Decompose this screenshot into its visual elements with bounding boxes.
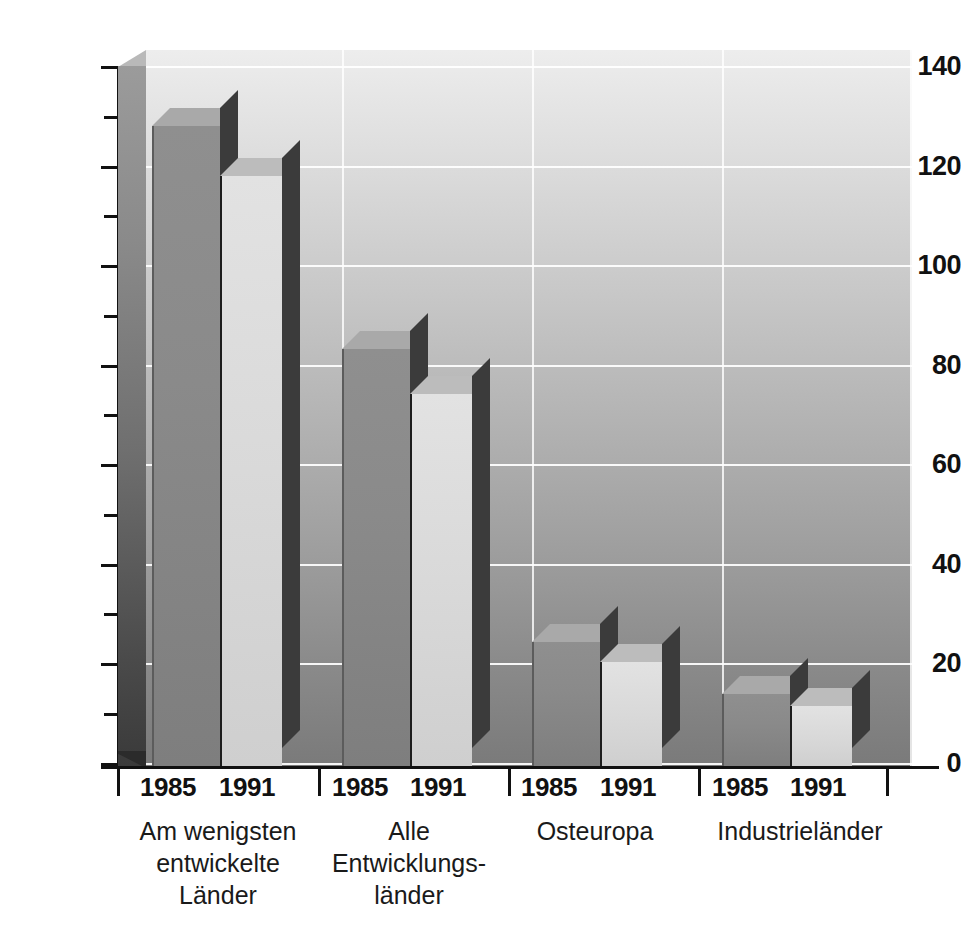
x-axis-year-label-group-2-1985: 1985 [511, 772, 587, 803]
x-axis-year-label-group-0-1991: 1991 [209, 772, 285, 803]
x-axis-group-separator [886, 766, 889, 796]
plot-area [146, 50, 912, 766]
gridline-horizontal [146, 66, 912, 68]
bar-front-face [342, 349, 410, 766]
x-axis-group-separator [117, 766, 120, 796]
bar-group-3-1985[interactable] [722, 694, 790, 766]
bar-front-face [722, 694, 790, 766]
x-axis-year-label-group-1-1985: 1985 [322, 772, 398, 803]
category-label-group-1: Alle Entwicklungs- länder [297, 815, 521, 911]
bar-group-1-1991[interactable] [410, 394, 472, 766]
bar-front-face [790, 706, 852, 766]
bar-front-face [410, 394, 472, 766]
bar-side-face [662, 626, 680, 748]
category-label-group-3: Industrieländer [686, 815, 914, 847]
bar-side-face [852, 670, 870, 748]
category-label-line: Industrieländer [686, 815, 914, 847]
x-axis-year-label-group-0-1985: 1985 [130, 772, 206, 803]
bar-front-face [600, 662, 662, 766]
plot-wall-top-bevel [118, 50, 146, 67]
category-label-line: Alle [297, 815, 521, 847]
bar-front-face [220, 176, 282, 766]
x-axis-year-label-group-2-1991: 1991 [590, 772, 666, 803]
category-label-line: länder [297, 879, 521, 911]
x-axis-line [101, 766, 939, 769]
x-axis-year-label-group-3-1985: 1985 [702, 772, 778, 803]
category-label-group-2: Osteuropa [495, 815, 695, 847]
bar-front-face [532, 642, 600, 766]
gridline-vertical [722, 50, 724, 766]
category-label-line: Entwicklungs- [297, 847, 521, 879]
bar-group-3-1991[interactable] [790, 706, 852, 766]
x-axis-year-label-group-3-1991: 1991 [780, 772, 856, 803]
bar-side-face [282, 140, 300, 748]
x-axis-year-label-group-1-1991: 1991 [400, 772, 476, 803]
bar-group-1-1985[interactable] [342, 349, 410, 766]
bar-group-2-1991[interactable] [600, 662, 662, 766]
plot-left-wall [118, 66, 146, 766]
bar-group-2-1985[interactable] [532, 642, 600, 766]
bar-front-face [152, 126, 220, 766]
x-axis-group-separator [698, 766, 701, 796]
bar-group-0-1985[interactable] [152, 126, 220, 766]
bar-side-face [472, 358, 490, 748]
category-label-line: Osteuropa [495, 815, 695, 847]
gridline-vertical [910, 50, 912, 766]
x-axis-group-separator [318, 766, 321, 796]
bar-chart: 140 120 100 80 60 40 20 0 [0, 0, 961, 931]
bar-group-0-1991[interactable] [220, 176, 282, 766]
